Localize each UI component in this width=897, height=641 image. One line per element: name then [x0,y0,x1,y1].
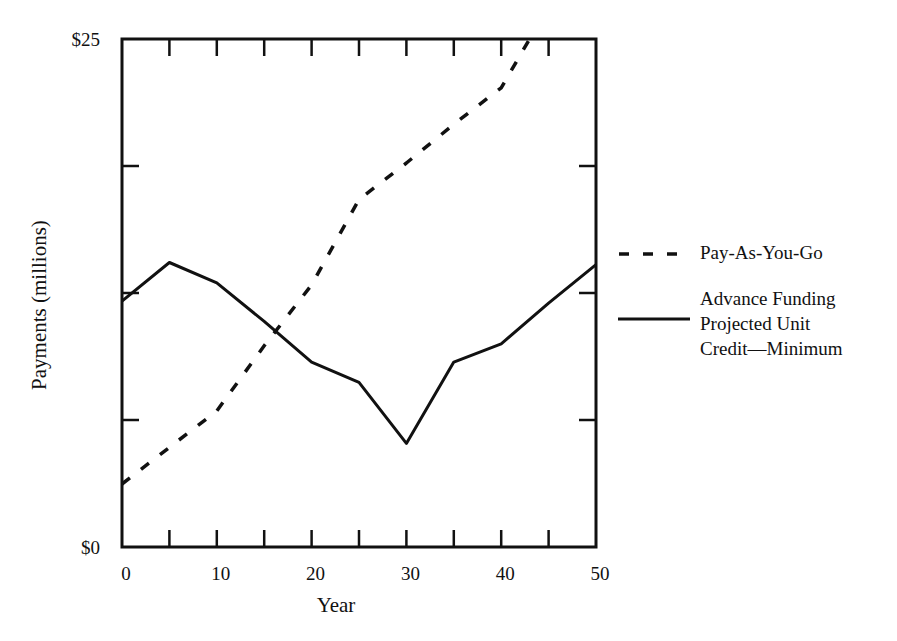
x-axis-title: Year [317,593,356,617]
x-tick-label: 0 [121,563,131,584]
x-tick-label: 40 [496,563,515,584]
plot-border [122,39,596,547]
x-tick-label: 50 [591,563,610,584]
y-axis-title: Payments (millions) [27,220,51,390]
legend-item-advance-funding: Advance Funding Projected Unit Credit—Mi… [618,288,843,359]
plot-frame [122,39,596,547]
x-tick-label: 30 [401,563,420,584]
tick-labels: 01020304050$0$25 [72,29,610,584]
legend-label: Credit—Minimum [700,338,843,359]
series-pay-as-you-go [122,39,530,484]
axis-ticks [122,39,596,547]
legend-label: Pay-As-You-Go [700,242,823,263]
x-tick-label: 10 [211,563,230,584]
legend: Pay-As-You-Go Advance Funding Projected … [618,242,843,359]
legend-label: Projected Unit [700,313,811,334]
y-tick-label: $25 [72,29,101,50]
legend-item-pay-as-you-go: Pay-As-You-Go [619,242,823,263]
series-advance-funding [122,263,596,444]
data-series [122,39,596,484]
x-tick-label: 20 [306,563,325,584]
line-chart: 01020304050$0$25 Payments (millions) Yea… [0,0,897,641]
legend-label: Advance Funding [700,288,836,309]
y-tick-label: $0 [81,537,100,558]
